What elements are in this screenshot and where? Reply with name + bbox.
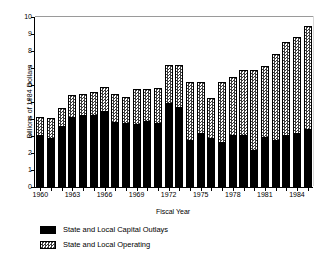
plot-right-border xyxy=(313,16,314,186)
bar-stack xyxy=(272,17,280,187)
bar-segment-capital-outlays xyxy=(175,108,183,187)
bar-segment-operating xyxy=(143,89,151,121)
bar-segment-capital-outlays xyxy=(143,122,151,187)
bar-stack xyxy=(197,17,205,187)
bar-segment-capital-outlays xyxy=(207,139,215,187)
y-axis-tick-label: 6 xyxy=(8,81,32,89)
y-axis-tick-label: 10 xyxy=(8,13,32,21)
bar-segment-capital-outlays xyxy=(229,136,237,187)
bar-segment-operating xyxy=(165,65,173,104)
bar-segment-capital-outlays xyxy=(261,138,269,187)
bar-segment-capital-outlays xyxy=(282,136,290,187)
bar-stack xyxy=(122,17,130,187)
x-axis-tick-label: 1972 xyxy=(154,191,184,199)
bar-segment-capital-outlays xyxy=(218,143,226,187)
x-axis-tick xyxy=(51,187,52,191)
y-axis-tick-label: 8 xyxy=(8,47,32,55)
bar-segment-operating xyxy=(304,26,312,131)
bar-stack xyxy=(207,17,215,187)
bar-segment-operating xyxy=(133,89,141,125)
bar-segment-capital-outlays xyxy=(36,136,44,187)
bar-segment-capital-outlays xyxy=(293,134,301,187)
y-axis-tick-label: 9 xyxy=(8,30,32,38)
bar-stack xyxy=(133,17,141,187)
bar-stack xyxy=(47,17,55,187)
bar-segment-operating xyxy=(197,82,205,135)
bar-stack xyxy=(111,17,119,187)
bar-segment-operating xyxy=(100,87,108,113)
bar-segment-capital-outlays xyxy=(165,104,173,187)
bar-stack xyxy=(250,17,258,187)
x-axis-tick-label: 1963 xyxy=(57,191,87,199)
x-axis-tick xyxy=(83,187,84,191)
bar-segment-capital-outlays xyxy=(90,116,98,187)
bar-segment-capital-outlays xyxy=(79,116,87,187)
bar-stack xyxy=(90,17,98,187)
bar-stack xyxy=(36,17,44,187)
x-axis-tick xyxy=(211,187,212,191)
x-axis-tick xyxy=(276,187,277,191)
y-axis-tick-label: 1 xyxy=(8,166,32,174)
bar-segment-operating xyxy=(58,108,66,127)
bar-segment-capital-outlays xyxy=(304,130,312,187)
bar-segment-capital-outlays xyxy=(58,127,66,187)
bar-segment-capital-outlays xyxy=(122,124,130,187)
bar-segment-operating xyxy=(47,118,55,139)
legend-swatch-operating xyxy=(40,241,56,249)
bar-stack xyxy=(218,17,226,187)
bar-segment-operating xyxy=(79,94,87,116)
bar-segment-capital-outlays xyxy=(68,118,76,187)
x-axis-tick-label: 1978 xyxy=(218,191,248,199)
x-axis-tick xyxy=(244,187,245,191)
bar-stack xyxy=(293,17,301,187)
bar-stack xyxy=(261,17,269,187)
plot-area: 012345678910 196019631966196919721975197… xyxy=(34,17,313,188)
bar-segment-capital-outlays xyxy=(133,125,141,187)
bar-segment-operating xyxy=(122,97,130,124)
bar-stack xyxy=(68,17,76,187)
bar-segment-operating xyxy=(154,88,162,125)
chart-legend: State and Local Capital Outlays State an… xyxy=(40,222,280,252)
bar-stack xyxy=(282,17,290,187)
bar-stack xyxy=(100,17,108,187)
bar-segment-capital-outlays xyxy=(111,123,119,187)
bar-segment-capital-outlays xyxy=(186,141,194,187)
y-axis-tick-label: 4 xyxy=(8,115,32,123)
bar-segment-operating xyxy=(282,42,290,136)
bar-stack xyxy=(229,17,237,187)
bar-segment-operating xyxy=(111,94,119,123)
bar-segment-operating xyxy=(272,54,280,141)
y-axis-tick-label: 2 xyxy=(8,149,32,157)
bar-segment-operating xyxy=(68,95,76,118)
y-axis-tick-label: 5 xyxy=(8,98,32,106)
x-axis-tick xyxy=(179,187,180,191)
bar-stack xyxy=(175,17,183,187)
bar-stack xyxy=(304,17,312,187)
x-axis-tick-label: 1984 xyxy=(282,191,312,199)
bar-stack xyxy=(79,17,87,187)
y-axis-tick-label: 7 xyxy=(8,64,32,72)
x-axis-tick-label: 1975 xyxy=(186,191,216,199)
bar-segment-operating xyxy=(175,65,183,108)
bar-segment-operating xyxy=(90,92,98,116)
bar-segment-operating xyxy=(239,70,247,136)
x-axis-tick-label: 1969 xyxy=(122,191,152,199)
bar-segment-operating xyxy=(250,70,258,152)
bar-stack xyxy=(58,17,66,187)
bar-segment-operating xyxy=(36,117,44,136)
legend-item-capital-outlays: State and Local Capital Outlays xyxy=(40,222,280,237)
x-axis-title: Fiscal Year xyxy=(34,208,312,215)
y-axis-tick-label: 3 xyxy=(8,132,32,140)
legend-item-operating: State and Local Operating xyxy=(40,237,280,252)
bar-segment-capital-outlays xyxy=(272,141,280,187)
bar-segment-capital-outlays xyxy=(197,134,205,187)
bar-stack xyxy=(239,17,247,187)
bar-stack xyxy=(154,17,162,187)
bar-stack xyxy=(143,17,151,187)
bar-segment-operating xyxy=(186,82,194,142)
x-axis-tick xyxy=(147,187,148,191)
x-axis-tick-label: 1960 xyxy=(25,191,55,199)
legend-label-operating: State and Local Operating xyxy=(63,240,150,249)
legend-swatch-capital-outlays xyxy=(40,226,56,234)
bar-segment-operating xyxy=(229,77,237,137)
